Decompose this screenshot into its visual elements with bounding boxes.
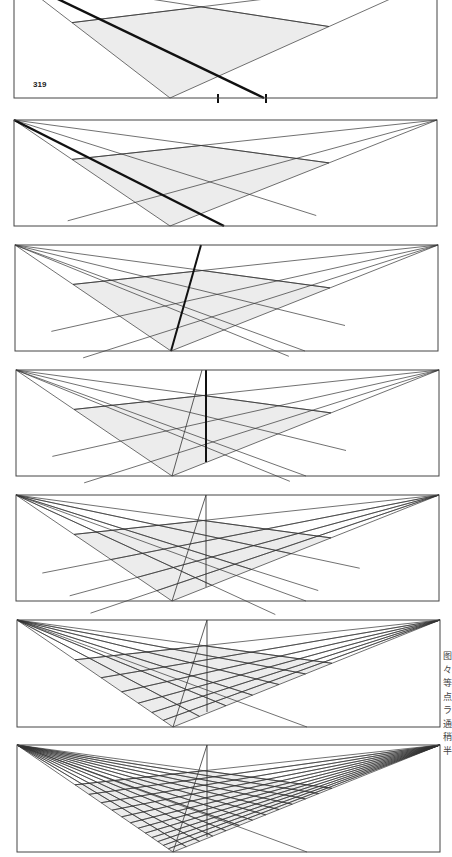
side-text-glyph: ラ xyxy=(443,704,452,718)
side-text-glyph: 稍 xyxy=(443,731,452,745)
panel-drawing xyxy=(14,0,437,104)
perspective-panel-1 xyxy=(14,0,437,98)
side-text-fragment: 图々等点ラ通稍半 xyxy=(443,650,452,758)
side-text-glyph: 点 xyxy=(443,691,452,705)
perspective-panel-5 xyxy=(16,495,439,601)
panel-drawing xyxy=(17,745,440,857)
panel-drawing xyxy=(16,370,439,482)
panel-drawing xyxy=(15,245,438,357)
panel-drawing xyxy=(17,620,440,733)
perspective-panel-4 xyxy=(16,370,439,476)
figure-number: 319 xyxy=(33,80,46,89)
side-text-glyph: 半 xyxy=(443,745,452,759)
perspective-panel-3 xyxy=(15,245,438,351)
perspective-panel-6 xyxy=(17,620,440,727)
side-text-glyph: 々 xyxy=(443,664,452,678)
perspective-panel-7 xyxy=(17,745,440,852)
side-text-glyph: 图 xyxy=(443,650,452,664)
side-text-glyph: 通 xyxy=(443,718,452,732)
panel-drawing xyxy=(14,120,437,232)
perspective-panel-2 xyxy=(14,120,437,226)
panel-drawing xyxy=(16,495,439,607)
side-text-glyph: 等 xyxy=(443,677,452,691)
